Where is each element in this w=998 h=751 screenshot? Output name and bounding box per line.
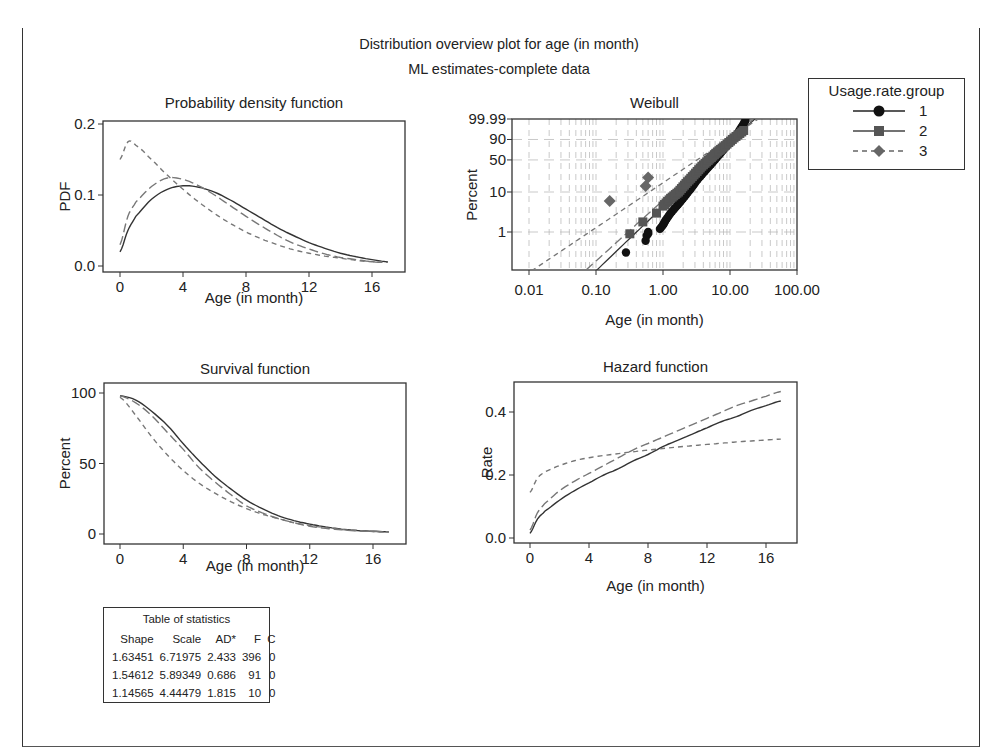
x-tick-label: 12 (699, 549, 716, 566)
x-tick-label: 8 (242, 278, 250, 295)
circle-point (644, 228, 652, 236)
panel-title: Hazard function (603, 358, 708, 375)
x-tick-label: 0 (526, 549, 534, 566)
x-tick-label: 0.01 (514, 281, 543, 298)
x-axis-label: Age (in month) (205, 289, 303, 306)
y-tick-label: 50 (79, 455, 96, 472)
series-line-3 (120, 141, 388, 263)
series-line-3 (120, 397, 389, 532)
x-tick-label: 16 (365, 550, 382, 567)
table-row: 1.54612 5.89349 0.686 91 0 (110, 666, 275, 684)
x-tick-label: 12 (301, 550, 318, 567)
y-axis-label: PDF (56, 182, 73, 212)
data-points (604, 117, 750, 257)
y-tick-label: 0.4 (485, 403, 506, 420)
table-header-row: Shape Scale AD* F C (110, 630, 275, 648)
column-header: F (236, 630, 261, 648)
square-point (739, 126, 748, 135)
table-row: 1.14565 4.44479 1.815 10 0 (110, 684, 275, 702)
series-line-1 (120, 396, 389, 532)
y-axis-label: Percent (56, 437, 73, 490)
square-point (638, 217, 647, 226)
y-tick-label: 0.0 (74, 257, 95, 274)
column-header: Shape (110, 630, 154, 648)
series-line-1 (120, 186, 388, 262)
x-tick-label: 4 (585, 549, 593, 566)
x-tick-label: 10.00 (711, 281, 749, 298)
y-tick-label: 10 (489, 183, 506, 200)
circle-point (622, 248, 630, 256)
y-tick-label: 0.2 (485, 466, 506, 483)
plot-area (514, 382, 797, 543)
series-line-2 (530, 392, 781, 531)
panel-title: Weibull (630, 94, 679, 111)
square-marker-icon (849, 122, 919, 140)
diamond-marker-icon (849, 142, 919, 160)
series-line-2 (120, 178, 388, 263)
series-line-3 (530, 439, 781, 492)
x-tick-label: 4 (179, 278, 187, 295)
series-line-2 (120, 396, 389, 532)
y-tick-label: 1 (498, 223, 506, 240)
x-tick-label: 16 (758, 549, 775, 566)
y-tick-label: 0.0 (485, 529, 506, 546)
y-tick-label: 0.2 (74, 115, 95, 132)
series-line-1 (530, 401, 781, 533)
plot-area (104, 383, 406, 544)
x-axis-label: Age (in month) (206, 557, 304, 574)
legend: Usage.rate.group 1 2 3 (808, 78, 965, 170)
x-tick-label: 1.00 (648, 281, 677, 298)
x-axis-label: Age (in month) (605, 311, 703, 328)
x-tick-label: 8 (644, 549, 652, 566)
x-tick-label: 0.10 (581, 281, 610, 298)
x-tick-label: 12 (301, 278, 318, 295)
y-tick-label: 99.99 (468, 110, 506, 127)
circle-point (741, 117, 749, 125)
weibull-grid (512, 119, 797, 270)
statistics-table-title: Table of statistics (104, 613, 269, 625)
x-tick-label: 4 (179, 550, 187, 567)
legend-item-2: 2 (849, 122, 959, 140)
x-tick-label: 100.00 (774, 281, 820, 298)
panel-title: Survival function (200, 360, 310, 377)
square-point (625, 229, 634, 238)
statistics-table: Table of statistics Shape Scale AD* F C … (103, 607, 270, 703)
legend-item-3: 3 (849, 142, 959, 160)
plot-area (512, 119, 797, 270)
x-axis-label: Age (in month) (606, 577, 704, 594)
x-tick-label: 8 (242, 550, 250, 567)
column-header: AD* (201, 630, 236, 648)
column-header: Scale (154, 630, 202, 648)
table-row: 1.63451 6.71975 2.433 396 0 (110, 648, 275, 666)
plot-area (103, 121, 405, 272)
diamond-point (604, 195, 616, 207)
y-tick-label: 50 (489, 151, 506, 168)
legend-title: Usage.rate.group (809, 82, 964, 99)
y-axis-label: Percent (463, 168, 480, 221)
x-tick-label: 16 (364, 278, 381, 295)
x-tick-label: 0 (116, 550, 124, 567)
y-tick-label: 100 (71, 384, 96, 401)
y-tick-label: 0 (88, 525, 96, 542)
legend-item-1: 1 (849, 102, 959, 120)
statistics-grid: Shape Scale AD* F C 1.63451 6.71975 2.43… (110, 630, 275, 702)
column-header: C (261, 630, 275, 648)
y-tick-label: 90 (489, 130, 506, 147)
panel-title: Probability density function (165, 94, 343, 111)
y-tick-label: 0.1 (74, 186, 95, 203)
circle-marker-icon (849, 102, 919, 120)
x-tick-label: 0 (116, 278, 124, 295)
